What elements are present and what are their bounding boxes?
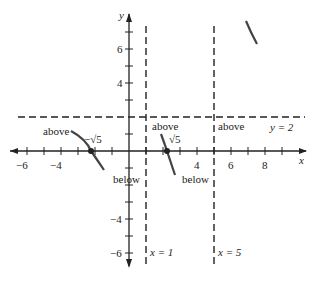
- x-tick-label: −6: [16, 159, 28, 171]
- curve-upper-right-piece: [246, 21, 257, 44]
- annotation-above: above: [152, 120, 178, 132]
- annotation-below: below: [182, 173, 209, 185]
- arrow-left-icon: [10, 148, 18, 154]
- y-axis-label: y: [118, 9, 124, 21]
- asymptote-label-x5: x = 5: [217, 246, 242, 258]
- root-label-pos: √5: [169, 133, 181, 145]
- asymptote-label-y2: y = 2: [269, 121, 294, 133]
- annotation-above: above: [43, 125, 69, 137]
- x-tick-label: 8: [262, 159, 268, 171]
- x-tick-label: 6: [228, 159, 234, 171]
- y-tick-label: 6: [117, 43, 123, 55]
- y-tick-label: −6: [110, 247, 122, 259]
- annotation-below: below: [113, 173, 140, 185]
- y-axis: [125, 13, 133, 268]
- y-tick-label: 4: [117, 77, 123, 89]
- x-tick-label: −4: [50, 159, 62, 171]
- x-tick-label: 4: [194, 159, 200, 171]
- annotation-above: above: [218, 120, 244, 132]
- y-tick-label: −4: [110, 213, 122, 225]
- arrow-up-icon: [126, 13, 132, 22]
- x-axis: [10, 147, 307, 155]
- arrow-down-icon: [126, 259, 132, 268]
- zero-point-root5: [164, 148, 170, 154]
- rational-function-graph: −6 −4 4 6 8 x 6 4 −4 −6 y above −√5 belo…: [0, 0, 320, 282]
- x-axis-label: x: [298, 154, 304, 166]
- asymptote-label-x1: x = 1: [149, 246, 173, 258]
- root-label-neg: −√5: [84, 133, 102, 145]
- zero-point-neg-root5: [88, 148, 94, 154]
